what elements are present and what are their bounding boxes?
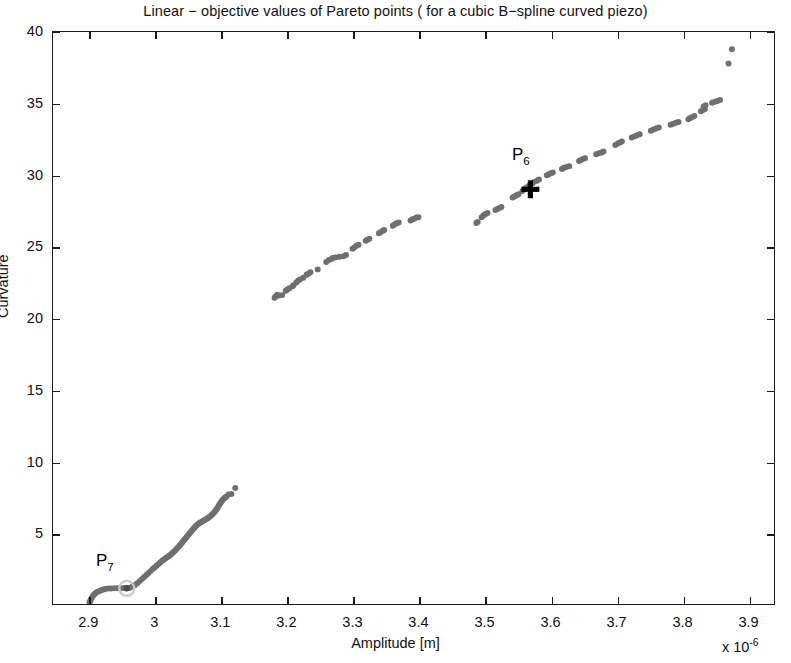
x-tick-mark bbox=[552, 597, 553, 604]
x-tick-label: 3.2 bbox=[256, 614, 316, 630]
x-tick-mark bbox=[618, 32, 619, 39]
y-tick-mark bbox=[767, 247, 774, 248]
series-upper-branch bbox=[272, 46, 735, 301]
pareto-label-subscript: 7 bbox=[107, 561, 113, 573]
x-tick-label: 3.3 bbox=[322, 614, 382, 630]
data-point bbox=[717, 97, 723, 103]
x-tick-mark bbox=[750, 32, 751, 39]
x-axis-label: Amplitude [m] bbox=[0, 635, 791, 651]
x-axis-multiplier-exponent: -6 bbox=[749, 637, 758, 648]
y-tick-mark bbox=[53, 319, 60, 320]
x-tick-label: 3.5 bbox=[454, 614, 514, 630]
y-tick-mark bbox=[53, 176, 60, 177]
x-tick-label: 3.9 bbox=[719, 614, 779, 630]
x-tick-label: 3.7 bbox=[587, 614, 647, 630]
x-tick-mark bbox=[89, 597, 90, 604]
x-tick-mark bbox=[287, 32, 288, 39]
data-point bbox=[485, 210, 491, 216]
data-point bbox=[381, 227, 387, 233]
y-tick-mark bbox=[53, 104, 60, 105]
x-tick-label: 3.6 bbox=[521, 614, 581, 630]
y-tick-mark bbox=[767, 176, 774, 177]
y-tick-label: 30 bbox=[0, 167, 43, 183]
y-tick-label: 35 bbox=[0, 95, 43, 111]
plot-area bbox=[52, 31, 775, 605]
y-tick-label: 25 bbox=[0, 238, 43, 254]
pareto-label-base: P bbox=[512, 145, 523, 164]
data-point bbox=[396, 219, 402, 225]
x-tick-label: 3.4 bbox=[388, 614, 448, 630]
x-axis-multiplier: x 10-6 bbox=[722, 637, 758, 655]
y-tick-mark bbox=[767, 534, 774, 535]
y-tick-mark bbox=[53, 534, 60, 535]
y-tick-label: 15 bbox=[0, 382, 43, 398]
chart-title: Linear − objective values of Pareto poin… bbox=[0, 3, 791, 19]
x-tick-label: 3.8 bbox=[653, 614, 713, 630]
x-tick-mark bbox=[89, 32, 90, 39]
x-tick-label: 3.1 bbox=[190, 614, 250, 630]
x-tick-mark bbox=[618, 597, 619, 604]
data-point bbox=[366, 236, 372, 242]
data-point bbox=[676, 119, 682, 125]
data-point bbox=[415, 214, 421, 220]
data-point bbox=[228, 491, 234, 497]
y-tick-mark bbox=[53, 247, 60, 248]
data-point bbox=[307, 269, 313, 275]
x-tick-mark bbox=[353, 597, 354, 604]
x-tick-mark bbox=[552, 32, 553, 39]
data-point bbox=[550, 169, 556, 175]
pareto-point-label-P6: P6 bbox=[512, 145, 530, 166]
x-tick-mark bbox=[419, 597, 420, 604]
data-point bbox=[726, 60, 732, 66]
x-tick-mark bbox=[419, 32, 420, 39]
y-tick-label: 10 bbox=[0, 454, 43, 470]
data-point bbox=[703, 102, 709, 108]
x-tick-mark bbox=[155, 32, 156, 39]
x-tick-label: 2.9 bbox=[58, 614, 118, 630]
y-tick-mark bbox=[767, 32, 774, 33]
data-point bbox=[343, 252, 349, 258]
y-tick-label: 40 bbox=[0, 23, 43, 39]
x-tick-label: 3 bbox=[124, 614, 184, 630]
data-point bbox=[356, 242, 362, 248]
data-point bbox=[729, 46, 735, 52]
x-tick-mark bbox=[750, 597, 751, 604]
data-point bbox=[582, 155, 588, 161]
y-tick-mark bbox=[53, 32, 60, 33]
data-point bbox=[619, 138, 625, 144]
x-tick-mark bbox=[684, 597, 685, 604]
data-point bbox=[691, 113, 697, 119]
y-tick-mark bbox=[53, 463, 60, 464]
y-axis-label: Curvature bbox=[0, 254, 11, 318]
data-point bbox=[566, 163, 572, 169]
data-point bbox=[656, 125, 662, 131]
y-tick-mark bbox=[767, 319, 774, 320]
x-tick-mark bbox=[485, 597, 486, 604]
x-tick-mark bbox=[221, 32, 222, 39]
data-point bbox=[475, 219, 481, 225]
series-lower-branch bbox=[87, 485, 239, 604]
pareto-point-label-P7: P7 bbox=[96, 551, 114, 572]
data-point bbox=[498, 204, 504, 210]
x-tick-mark bbox=[155, 597, 156, 604]
x-tick-mark bbox=[287, 597, 288, 604]
data-point bbox=[232, 485, 238, 491]
data-point bbox=[315, 266, 321, 272]
y-tick-mark bbox=[767, 463, 774, 464]
y-tick-mark bbox=[767, 391, 774, 392]
data-point bbox=[600, 148, 606, 154]
y-tick-label: 20 bbox=[0, 310, 43, 326]
pareto-label-subscript: 6 bbox=[523, 155, 529, 167]
x-tick-mark bbox=[221, 597, 222, 604]
x-axis-multiplier-base: x 10 bbox=[722, 639, 749, 655]
pareto-label-base: P bbox=[96, 551, 107, 570]
data-point bbox=[536, 177, 542, 183]
x-tick-mark bbox=[485, 32, 486, 39]
scatter-data-layer bbox=[53, 32, 774, 604]
y-tick-mark bbox=[53, 391, 60, 392]
figure-container: Linear − objective values of Pareto poin… bbox=[0, 0, 791, 663]
x-tick-mark bbox=[684, 32, 685, 39]
data-point bbox=[637, 131, 643, 137]
y-tick-mark bbox=[767, 104, 774, 105]
x-tick-mark bbox=[353, 32, 354, 39]
